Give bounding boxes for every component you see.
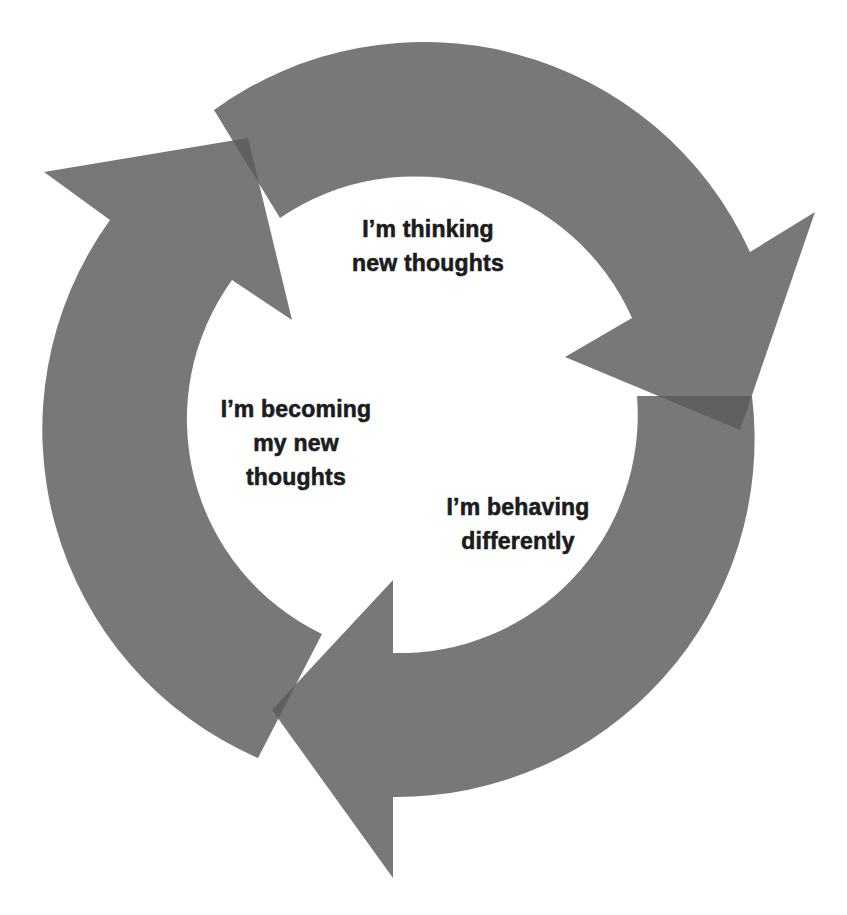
stage-label-becoming: I’m becoming my new thoughts (196, 392, 396, 494)
stage-label-line: new thoughts (338, 246, 518, 280)
stage-label-line: thoughts (196, 460, 396, 494)
cycle-arrows (0, 0, 847, 915)
stage-label-line: I’m thinking (338, 212, 518, 246)
stage-label-behaving: I’m behaving differently (418, 490, 618, 558)
stage-label-line: I’m becoming (196, 392, 396, 426)
stage-label-line: I’m behaving (418, 490, 618, 524)
cycle-diagram: I’m thinking new thoughts I’m becoming m… (0, 0, 847, 915)
stage-label-line: my new (196, 426, 396, 460)
stage-label-line: differently (418, 524, 618, 558)
stage-label-thinking: I’m thinking new thoughts (338, 212, 518, 280)
